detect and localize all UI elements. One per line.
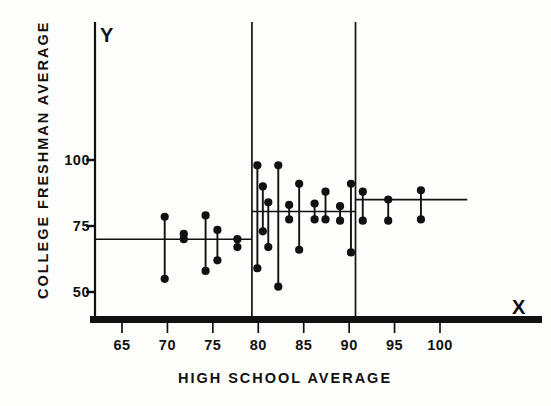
data-point-high-14 (347, 180, 355, 188)
x-tick-label-90: 90 (341, 337, 358, 353)
data-point-high-17 (417, 186, 425, 194)
data-point-low-8 (274, 283, 282, 291)
data-point-low-14 (347, 248, 355, 256)
x-tick-label-85: 85 (295, 337, 312, 353)
data-point-low-1 (180, 235, 188, 243)
data-point-high-5 (253, 161, 261, 169)
x-axis-spine (90, 316, 542, 323)
x-tick-label-100: 100 (427, 337, 453, 353)
data-point-low-4 (233, 243, 241, 251)
data-point-low-3 (213, 256, 221, 264)
data-point-low-11 (311, 215, 319, 223)
chart-figure: 5075100 COLLEGE FRESHMAN AVERAGE HIGH SC… (0, 0, 551, 406)
data-point-low-7 (264, 243, 272, 251)
data-point-high-6 (259, 182, 267, 190)
y-axis-title: COLLEGE FRESHMAN AVERAGE (35, 69, 51, 299)
y-axis-marker: Y (100, 24, 113, 47)
data-point-low-16 (384, 217, 392, 225)
data-point-low-17 (417, 215, 425, 223)
data-point-high-11 (311, 199, 319, 207)
data-point-high-7 (264, 198, 272, 206)
x-axis-title: HIGH SCHOOL AVERAGE (120, 370, 450, 386)
x-tick-label-70: 70 (159, 337, 176, 353)
data-point-high-9 (285, 201, 293, 209)
plot-geometry (86, 22, 542, 333)
y-tick-label-100: 100 (64, 152, 90, 168)
data-point-high-3 (213, 226, 221, 234)
data-point-high-8 (274, 161, 282, 169)
data-point-high-0 (161, 213, 169, 221)
data-point-high-15 (359, 188, 367, 196)
data-point-low-5 (253, 264, 261, 272)
x-tick-label-65: 65 (113, 337, 130, 353)
data-point-low-9 (285, 215, 293, 223)
data-point-low-0 (161, 275, 169, 283)
data-point-high-12 (321, 188, 329, 196)
y-tick-label-50: 50 (73, 284, 90, 300)
data-point-low-6 (259, 227, 267, 235)
data-point-low-2 (201, 267, 209, 275)
data-point-low-13 (336, 217, 344, 225)
data-point-high-16 (384, 196, 392, 204)
x-axis-marker: X (512, 296, 525, 319)
data-point-low-10 (295, 246, 303, 254)
data-point-high-4 (233, 235, 241, 243)
data-point-low-15 (359, 217, 367, 225)
data-point-high-10 (295, 180, 303, 188)
data-point-high-13 (336, 202, 344, 210)
x-tick-label-95: 95 (386, 337, 403, 353)
data-point-high-2 (201, 211, 209, 219)
data-point-low-12 (321, 215, 329, 223)
x-tick-label-80: 80 (250, 337, 267, 353)
x-tick-label-75: 75 (204, 337, 221, 353)
y-tick-label-75: 75 (73, 218, 90, 234)
